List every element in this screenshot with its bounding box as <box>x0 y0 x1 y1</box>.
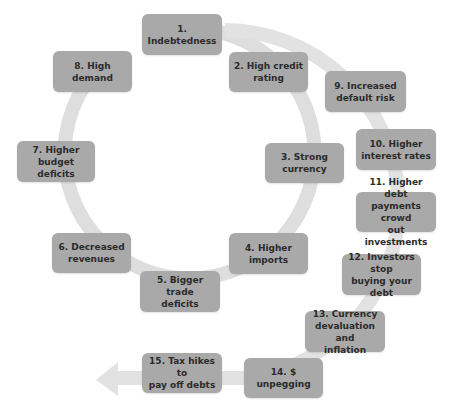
node-higher-debt-payments: 11. Higher debt payments crowd out inves… <box>356 192 436 232</box>
node-strong-currency: 3. Strong currency <box>265 143 344 183</box>
node-high-credit-rating: 2. High credit rating <box>229 52 308 92</box>
outer-path-arrowhead <box>96 362 118 396</box>
node-currency-devaluation: 13. Currency devaluation and inflation <box>305 311 385 352</box>
node-indebtedness: 1. Indebtedness <box>142 14 222 55</box>
node-investors-stop-buying: 12. Investors stop buying your debt <box>342 254 421 295</box>
node-bigger-trade-deficits: 5. Bigger trade deficits <box>140 271 220 312</box>
debt-cycle-diagram: 1. Indebtedness 2. High credit rating 3.… <box>0 0 450 413</box>
node-higher-budget-deficits: 7. Higher budget deficits <box>17 141 95 182</box>
node-decreased-revenues: 6. Decreased revenues <box>52 233 131 273</box>
node-higher-imports: 4. Higher imports <box>229 233 308 274</box>
node-higher-interest-rates: 10. Higher interest rates <box>356 129 436 170</box>
node-dollar-unpegging: 14. $ unpegging <box>244 358 323 398</box>
node-high-demand: 8. High demand <box>53 51 132 92</box>
node-increased-default-risk: 9. Increased default risk <box>325 71 406 112</box>
node-tax-hikes: 15. Tax hikes to pay off debts <box>142 353 222 393</box>
